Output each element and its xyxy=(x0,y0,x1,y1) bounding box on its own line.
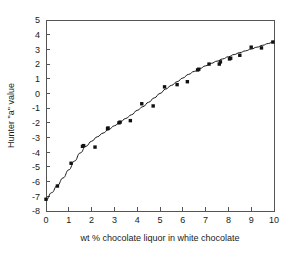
data-point-marker xyxy=(175,83,178,86)
data-point-marker xyxy=(82,144,85,147)
y-tick-label: 4 xyxy=(35,30,40,40)
y-tick-label: -6 xyxy=(32,177,40,187)
y-tick-label: 1 xyxy=(35,74,40,84)
data-point-marker xyxy=(197,68,200,71)
data-point-marker xyxy=(250,45,253,48)
x-tick-label: 7 xyxy=(203,215,208,225)
data-point-marker xyxy=(186,80,189,83)
y-tick-labels: -8-7-6-5-4-3-2-1012345 xyxy=(32,15,40,216)
data-point-marker xyxy=(260,46,263,49)
y-tick-label: -3 xyxy=(32,133,40,143)
data-point-marker xyxy=(151,104,154,107)
x-tick-label: 0 xyxy=(43,215,48,225)
data-point-marker xyxy=(140,102,143,105)
chart-figure: 012345678910 -8-7-6-5-4-3-2-1012345 wt %… xyxy=(0,0,292,258)
y-tick-label: -4 xyxy=(32,148,40,158)
fit-curve xyxy=(46,41,274,200)
data-points xyxy=(44,40,274,201)
data-point-marker xyxy=(163,85,166,88)
y-tick-label: 3 xyxy=(35,45,40,55)
x-tick-label: 10 xyxy=(269,215,279,225)
data-point-marker xyxy=(219,60,222,63)
data-point-marker xyxy=(207,62,210,65)
x-tick-label: 8 xyxy=(226,215,231,225)
data-point-marker xyxy=(44,198,47,201)
axis-frame xyxy=(46,20,274,211)
x-tick-labels: 012345678910 xyxy=(43,215,279,225)
x-tick-label: 5 xyxy=(157,215,162,225)
y-tick-label: 5 xyxy=(35,15,40,25)
y-tick-label: -5 xyxy=(32,162,40,172)
data-point-marker xyxy=(93,145,96,148)
x-tick-label: 4 xyxy=(135,215,140,225)
y-tick-label: 0 xyxy=(35,89,40,99)
x-tick-label: 2 xyxy=(89,215,94,225)
x-axis-ticks xyxy=(46,207,274,211)
y-axis-ticks xyxy=(46,20,50,211)
x-tick-label: 3 xyxy=(112,215,117,225)
y-tick-label: -2 xyxy=(32,118,40,128)
x-tick-label: 1 xyxy=(66,215,71,225)
y-tick-label: -8 xyxy=(32,206,40,216)
y-axis-title: Hunter "a" value xyxy=(6,83,16,148)
y-tick-label: -7 xyxy=(32,192,40,202)
data-point-marker xyxy=(229,57,232,60)
data-point-marker xyxy=(106,126,109,129)
x-tick-label: 6 xyxy=(180,215,185,225)
data-point-marker xyxy=(69,162,72,165)
data-point-marker xyxy=(56,184,59,187)
data-point-marker xyxy=(118,120,121,123)
y-tick-label: -1 xyxy=(32,103,40,113)
data-point-marker xyxy=(238,54,241,57)
y-tick-label: 2 xyxy=(35,59,40,69)
x-axis-title: wt % chocolate liquor in white chocolate xyxy=(79,233,239,243)
data-point-marker xyxy=(271,40,274,43)
data-point-marker xyxy=(129,119,132,122)
scatter-plot: 012345678910 -8-7-6-5-4-3-2-1012345 wt %… xyxy=(0,0,292,258)
x-tick-label: 9 xyxy=(249,215,254,225)
trend-line xyxy=(46,41,274,200)
